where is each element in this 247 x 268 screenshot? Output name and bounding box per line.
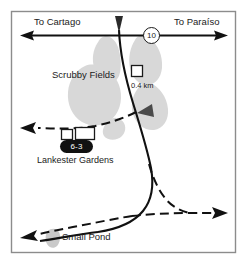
map-figure: To Cartago To Paraíso Scrubby Fields 0.4… bbox=[0, 0, 247, 268]
map-canvas bbox=[0, 0, 247, 268]
label-distance-0-4-km: 0.4 km bbox=[131, 82, 154, 90]
label-scrubby-fields: Scrubby Fields bbox=[52, 70, 115, 80]
park-code-badge-6-3: 6-3 bbox=[60, 140, 93, 153]
building-rect-icon-east bbox=[76, 128, 95, 140]
label-to-paraiso: To Paraíso bbox=[174, 17, 219, 27]
building-square-icon-west bbox=[62, 130, 73, 140]
route-shield-icon-10: 10 bbox=[143, 27, 160, 44]
label-lankester-gardens: Lankester Gardens bbox=[37, 156, 114, 165]
label-small-pond: Small Pond bbox=[62, 232, 111, 242]
building-square-icon-distance bbox=[132, 66, 143, 77]
label-to-cartago: To Cartago bbox=[34, 17, 80, 27]
